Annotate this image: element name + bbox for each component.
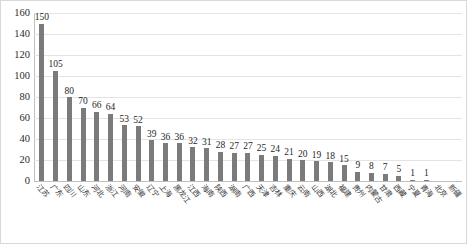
- x-axis-tick-slot: 吉林: [268, 183, 282, 239]
- bar-slot: 7: [378, 13, 392, 181]
- bar-slot: 27: [227, 13, 241, 181]
- bar-slot: 32: [186, 13, 200, 181]
- bar-value-label: 9: [355, 161, 360, 171]
- bar-slot: 52: [131, 13, 145, 181]
- bar-slot: 39: [145, 13, 159, 181]
- bar: [396, 176, 401, 181]
- bar: [369, 173, 374, 181]
- x-axis-tick-slot: 内蒙古: [365, 183, 379, 239]
- x-axis-tick-label: 西藏: [392, 183, 407, 199]
- bar: [300, 160, 305, 181]
- bar-value-label: 64: [106, 103, 116, 113]
- x-axis-tick-label: 山东: [76, 183, 91, 199]
- bar-slot: 80: [62, 13, 76, 181]
- x-axis-tick-label: 青海: [420, 183, 435, 199]
- bar-slot: 31: [200, 13, 214, 181]
- x-axis-tick-slot: 河北: [90, 183, 104, 239]
- bar: [245, 153, 250, 181]
- x-axis-tick-label: 上海: [159, 183, 174, 199]
- bar-value-label: 1: [410, 169, 415, 179]
- bar-chart: 020406080100120140160 150105807066645352…: [0, 0, 467, 244]
- bar-slot: [433, 13, 447, 181]
- x-axis-tick-slot: 浙江: [104, 183, 118, 239]
- x-axis-tick-label: 湖北: [323, 183, 338, 199]
- bar-value-label: 20: [298, 150, 308, 160]
- bar-value-label: 7: [383, 163, 388, 173]
- bar: [204, 148, 209, 181]
- bar: [232, 153, 237, 181]
- bar-slot: 66: [90, 13, 104, 181]
- bar-value-label: 15: [339, 155, 349, 165]
- x-axis-tick-label: 福建: [337, 183, 352, 199]
- x-axis-tick-slot: 江西: [186, 183, 200, 239]
- bar-value-label: 25: [257, 144, 267, 154]
- x-axis-tick-slot: 陕西: [214, 183, 228, 239]
- bar: [218, 152, 223, 181]
- bar-slot: 5: [392, 13, 406, 181]
- bar-slot: 28: [214, 13, 228, 181]
- x-axis-tick-slot: 上海: [159, 183, 173, 239]
- bar-value-label: 18: [326, 152, 336, 162]
- bar: [342, 165, 347, 181]
- bar-slot: 64: [104, 13, 118, 181]
- x-axis-tick-label: 江苏: [35, 183, 50, 199]
- x-axis-tick-label: 吉林: [268, 183, 283, 199]
- x-axis-tick-slot: 山东: [76, 183, 90, 239]
- x-axis-tick-slot: 山西: [310, 183, 324, 239]
- x-axis-tick-label: 甘肃: [378, 183, 393, 199]
- bar: [94, 112, 99, 181]
- bar: [122, 125, 127, 181]
- bar-value-label: 5: [397, 165, 402, 175]
- bar-value-label: 36: [174, 133, 184, 143]
- bar-value-label: 80: [65, 87, 75, 97]
- x-axis-tick-slot: 安徽: [131, 183, 145, 239]
- bar: [410, 180, 415, 181]
- bar-series: 1501058070666453523936363231282727252421…: [34, 13, 462, 181]
- bar-slot: 25: [255, 13, 269, 181]
- bar-slot: 1: [420, 13, 434, 181]
- bar-value-label: 39: [147, 130, 157, 140]
- bar-value-label: 1: [424, 169, 429, 179]
- x-axis-tick-label: 河北: [90, 183, 105, 199]
- bar-value-label: 24: [271, 145, 281, 155]
- x-axis-tick-slot: 海南: [200, 183, 214, 239]
- y-axis-tick-label: 60: [20, 113, 31, 124]
- x-axis-tick-label: 陕西: [213, 183, 228, 199]
- x-axis-tick-slot: 宁夏: [406, 183, 420, 239]
- bar: [314, 161, 319, 181]
- bar: [163, 143, 168, 181]
- bar-value-label: 32: [188, 137, 198, 147]
- bar: [136, 126, 141, 181]
- bar-slot: [447, 13, 461, 181]
- bar-slot: 53: [117, 13, 131, 181]
- x-axis-tick-label: 山西: [310, 183, 325, 199]
- bar-value-label: 31: [202, 138, 212, 148]
- bar: [190, 147, 195, 181]
- y-axis-tick-label: 0: [25, 176, 30, 187]
- x-axis-tick-slot: 甘肃: [378, 183, 392, 239]
- x-axis-tick-slot: 福建: [337, 183, 351, 239]
- y-axis-tick-label: 80: [20, 92, 31, 103]
- x-axis-tick-label: 辽宁: [145, 183, 160, 199]
- bar-slot: 1: [406, 13, 420, 181]
- bar: [149, 140, 154, 181]
- plot-area: 1501058070666453523936363231282727252421…: [34, 13, 462, 181]
- bar-value-label: 105: [48, 60, 62, 70]
- x-axis-tick-label: 海南: [200, 183, 215, 199]
- x-axis-tick-slot: 河南: [117, 183, 131, 239]
- bar: [355, 172, 360, 181]
- bar-value-label: 52: [133, 116, 143, 126]
- x-axis-tick-slot: 湖北: [323, 183, 337, 239]
- bar-slot: 24: [268, 13, 282, 181]
- x-axis-tick-label: 北京: [433, 183, 448, 199]
- x-axis: 江苏广东四川山东河北浙江河南安徽辽宁上海黑龙江江西海南陕西湖南广西天津吉林重庆云…: [34, 183, 462, 239]
- x-axis-tick-label: 河南: [117, 183, 132, 199]
- bar: [424, 180, 429, 181]
- bar-value-label: 53: [120, 115, 130, 125]
- y-axis: 020406080100120140160: [1, 13, 30, 181]
- x-axis-tick-slot: 广东: [49, 183, 63, 239]
- bar-slot: 27: [241, 13, 255, 181]
- x-axis-tick-slot: 广西: [241, 183, 255, 239]
- x-axis-tick-slot: 四川: [62, 183, 76, 239]
- x-axis-tick-slot: 湖南: [227, 183, 241, 239]
